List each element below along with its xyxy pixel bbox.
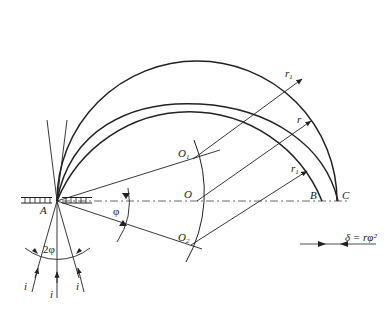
middle-circle-r xyxy=(57,61,337,201)
label-r1-bottom: r1 xyxy=(291,162,299,176)
label-O1: O1 xyxy=(178,147,189,161)
radius-r1-bottom-arrow xyxy=(191,171,307,245)
label-r: r xyxy=(297,113,302,125)
label-ray-i-right: i xyxy=(76,280,79,292)
inner-circle-r1 xyxy=(57,104,338,201)
label-C: C xyxy=(342,189,350,201)
radius-r1-top-arrow xyxy=(193,79,302,159)
label-phi: φ xyxy=(113,205,119,217)
radius-r-arrow xyxy=(197,121,311,201)
label-2phi: 2φ xyxy=(43,243,55,255)
label-r1-top: r1 xyxy=(285,67,293,81)
label-delta-formula: δ = rφ² xyxy=(345,231,377,243)
label-O: O xyxy=(184,188,192,200)
label-ray-i-center: i xyxy=(50,288,53,300)
label-A: A xyxy=(39,204,47,216)
label-O2: O2 xyxy=(178,231,190,245)
label-ray-i-left: i xyxy=(24,280,27,292)
label-B: B xyxy=(310,189,317,201)
rowland-circle-focusing-diagram: A B C O O1 O2 r1 r r1 φ 2φ i i i δ = rφ² xyxy=(0,0,392,311)
